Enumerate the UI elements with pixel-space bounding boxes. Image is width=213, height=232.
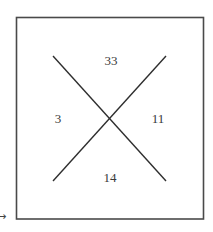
region-bottom-value: 14 (104, 171, 117, 184)
arrow-right-icon: → (0, 211, 6, 222)
region-left-value: 3 (55, 112, 62, 125)
diagram-canvas (0, 0, 213, 232)
region-right-value: 11 (152, 112, 165, 125)
region-top-value: 33 (105, 54, 118, 67)
